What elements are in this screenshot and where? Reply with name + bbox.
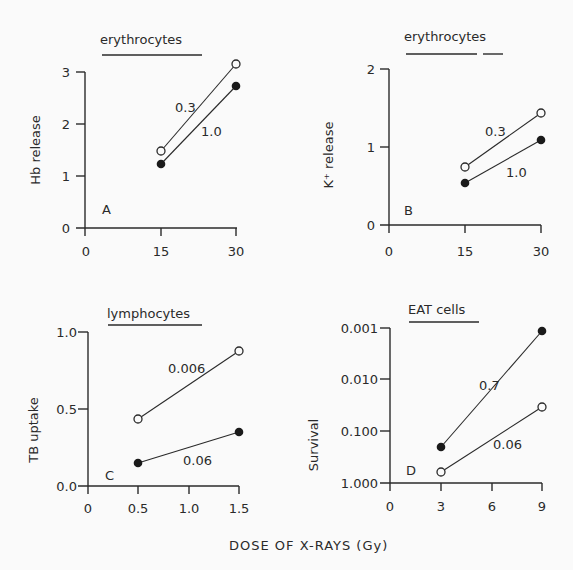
x-tick-label: 0.5 <box>128 501 149 516</box>
panel-d: EAT cells Survival 1.000 0.100 0.010 0.0… <box>306 302 546 514</box>
panel-c-title: lymphocytes <box>107 306 190 321</box>
panel-letter: A <box>102 202 111 217</box>
series-label: 1.0 <box>201 124 222 139</box>
y-tick-label: 0 <box>367 218 375 233</box>
panel-a-title: erythrocytes <box>100 32 182 47</box>
x-tick-label: 30 <box>228 244 245 259</box>
y-tick-label: 0 <box>62 221 70 236</box>
panel-c: lymphocytes TB uptake 0.0 0.5 1.0 0 0.5 … <box>26 306 249 516</box>
panel-letter: D <box>406 463 416 478</box>
panel-b-ylabel: K⁺ release <box>321 122 336 189</box>
series-line-open <box>161 64 236 151</box>
x-tick-label: 9 <box>538 499 546 514</box>
x-tick-label: 0 <box>386 499 394 514</box>
data-point-open <box>235 347 243 355</box>
data-point-filled <box>461 179 470 188</box>
series-label: 0.3 <box>175 100 196 115</box>
y-tick-label: 0.001 <box>341 321 378 336</box>
series-label: 0.7 <box>479 378 500 393</box>
panel-letter: C <box>105 468 114 483</box>
y-tick-label: 2 <box>367 62 375 77</box>
panel-d-title: EAT cells <box>408 302 466 317</box>
series-line-open <box>441 407 542 472</box>
x-tick-label: 1.0 <box>179 501 200 516</box>
panel-a-ylabel: Hb release <box>28 115 43 185</box>
y-tick-label: 1 <box>62 169 70 184</box>
y-tick-label: 3 <box>62 65 70 80</box>
data-point-filled <box>538 327 547 336</box>
series-label: 0.06 <box>183 453 212 468</box>
data-point-open <box>232 60 240 68</box>
series-label: 0.006 <box>168 361 205 376</box>
x-tick-label: 3 <box>437 499 445 514</box>
panel-d-ylabel: Survival <box>306 419 321 471</box>
data-point-open <box>134 415 142 423</box>
data-point-filled <box>235 428 244 437</box>
data-point-filled <box>232 82 241 91</box>
data-point-open <box>437 468 445 476</box>
data-point-open <box>537 109 545 117</box>
x-tick-label: 0 <box>82 244 90 259</box>
series-line-open <box>465 113 541 167</box>
y-tick-label: 2 <box>62 117 70 132</box>
y-tick-label: 0.0 <box>56 479 77 494</box>
y-tick-label: 0.010 <box>341 372 378 387</box>
series-label: 0.06 <box>493 437 522 452</box>
data-point-filled <box>537 136 546 145</box>
x-tick-label: 6 <box>488 499 496 514</box>
series-line-filled <box>161 86 236 164</box>
data-point-open <box>157 147 165 155</box>
figure: erythrocytes Hb release 0 1 2 3 0 15 30 … <box>0 0 573 570</box>
data-point-filled <box>437 443 446 452</box>
panel-letter: B <box>404 203 413 218</box>
y-tick-label: 1.0 <box>56 325 77 340</box>
y-tick-label: 1 <box>367 140 375 155</box>
y-tick-label: 1.000 <box>341 476 378 491</box>
figure-xlabel: DOSE OF X-RAYS (Gy) <box>229 538 388 553</box>
x-tick-label: 15 <box>457 244 474 259</box>
panel-a: erythrocytes Hb release 0 1 2 3 0 15 30 … <box>28 32 244 259</box>
data-point-filled <box>134 459 143 468</box>
data-point-filled <box>157 160 166 169</box>
x-tick-label: 0 <box>385 244 393 259</box>
data-point-open <box>538 403 546 411</box>
series-label: 1.0 <box>506 165 527 180</box>
x-tick-label: 15 <box>153 244 170 259</box>
panel-c-ylabel: TB uptake <box>26 397 41 464</box>
x-tick-label: 1.5 <box>229 501 250 516</box>
series-line-filled <box>465 140 541 183</box>
data-point-open <box>461 163 469 171</box>
y-tick-label: 0.100 <box>341 424 378 439</box>
panel-b: erythrocytes K⁺ release 0 1 2 0 15 30 0.… <box>321 29 549 259</box>
x-tick-label: 0 <box>84 501 92 516</box>
y-tick-label: 0.5 <box>56 402 77 417</box>
series-label: 0.3 <box>485 124 506 139</box>
x-tick-label: 30 <box>533 244 550 259</box>
panel-b-title: erythrocytes <box>404 29 486 44</box>
